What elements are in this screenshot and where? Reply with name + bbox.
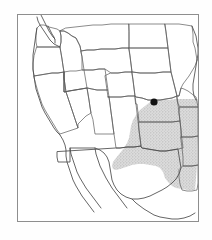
state-outline-nevada (64, 72, 91, 128)
coastline-gulf-coast (132, 199, 195, 219)
state-outline-wyoming (81, 48, 132, 73)
shaded-distribution-region (112, 99, 198, 190)
coastline-baja-gulf-side (70, 148, 101, 208)
locator-map-figure: Western and central United States shaded… (0, 0, 212, 240)
state-outline-north-dakota (129, 24, 168, 48)
state-outline-minnesota (165, 24, 197, 96)
state-outline-washington (36, 25, 61, 47)
state-outline-oregon (33, 47, 64, 76)
coastline-pacific (33, 28, 60, 135)
coastline-puget-sound (37, 17, 60, 47)
study-site-dot (150, 98, 157, 105)
map-canvas (0, 0, 212, 240)
state-outline-montana (60, 24, 129, 51)
state-outline-colorado (105, 72, 135, 97)
state-outline-nebraska (132, 72, 177, 100)
coastline-baja-california (60, 135, 94, 212)
state-outline-south-dakota (129, 48, 171, 73)
state-outline-arizona (87, 88, 114, 134)
